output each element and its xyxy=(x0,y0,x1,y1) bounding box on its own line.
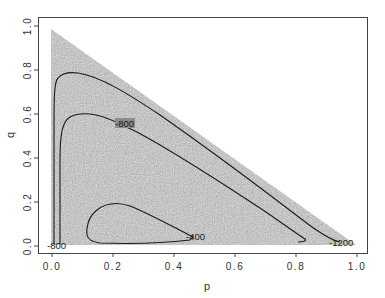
x-tick-labels: 0.0 0.2 0.4 0.6 0.8 1.0 xyxy=(43,261,366,272)
y-tick-label: 1.0 xyxy=(22,17,33,35)
y-axis-label: q xyxy=(4,132,16,138)
y-tick-label: 0.4 xyxy=(22,149,33,167)
x-axis-label: p xyxy=(204,280,210,292)
y-axis xyxy=(34,26,38,246)
shaded-region xyxy=(51,29,356,245)
x-tick-label: 0.8 xyxy=(287,261,305,272)
contour-label-minus-800-corner: -800 xyxy=(47,240,66,251)
y-tick-label: 0.2 xyxy=(22,193,33,211)
x-tick-label: 0.4 xyxy=(165,261,183,272)
x-tick-label: 1.0 xyxy=(348,261,366,272)
contour-label-minus-1200: -1200 xyxy=(329,237,353,248)
contour-chart: -800 -400 -800 -1200 0.0 0.2 0.4 0.6 0.8… xyxy=(0,0,385,298)
y-tick-label: 0.8 xyxy=(22,61,33,79)
x-tick-label: 0.6 xyxy=(226,261,244,272)
y-tick-label: 0.6 xyxy=(22,105,33,123)
x-tick-label: 0.0 xyxy=(43,261,61,272)
contour-label-minus-800-mid: -800 xyxy=(115,118,134,129)
x-tick-label: 0.2 xyxy=(104,261,122,272)
y-tick-labels: 0.0 0.2 0.4 0.6 0.8 1.0 xyxy=(22,17,33,255)
y-tick-label: 0.0 xyxy=(22,237,33,255)
contour-label-minus-400: -400 xyxy=(186,231,205,242)
